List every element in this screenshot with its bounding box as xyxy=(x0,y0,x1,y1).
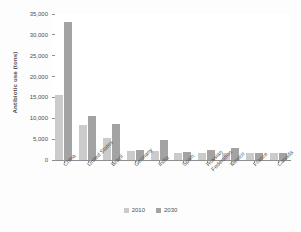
y-axis-tick-label: 0 xyxy=(45,157,52,163)
y-axis-tick-label: 25,000 xyxy=(30,53,52,59)
y-axis-tick-label: 15,000 xyxy=(30,94,52,100)
legend-item-2010[interactable]: 2010 xyxy=(124,207,145,213)
y-axis-title: Antibiotic use (tons) xyxy=(8,0,22,165)
legend-label: 2030 xyxy=(164,207,177,213)
y-axis-tick-label: 30,000 xyxy=(30,32,52,38)
legend-swatch-icon xyxy=(124,208,129,213)
y-axis-tick-label: 20,000 xyxy=(30,74,52,80)
y-axis-tick-label: 5,000 xyxy=(33,136,52,142)
x-axis-labels: ChinaUnited StatesBrazilGermanyIndiaSpai… xyxy=(52,163,291,211)
legend-item-2030[interactable]: 2030 xyxy=(156,207,177,213)
bar-2010-china[interactable] xyxy=(55,95,63,160)
chart-legend: 20102030 xyxy=(0,207,301,213)
legend-swatch-icon xyxy=(156,208,161,213)
y-axis-tick-label: 35,000 xyxy=(30,11,52,17)
bar-group xyxy=(52,14,76,160)
bar-2030-china[interactable] xyxy=(64,22,72,160)
bar-chart: Antibiotic use (tons) 35,00030,00025,000… xyxy=(0,0,301,232)
legend-label: 2010 xyxy=(132,207,145,213)
bar-2010-canada[interactable] xyxy=(270,153,278,160)
y-axis-title-label: Antibiotic use (tons) xyxy=(12,52,19,114)
y-axis-tick-label: 10,000 xyxy=(30,115,52,121)
